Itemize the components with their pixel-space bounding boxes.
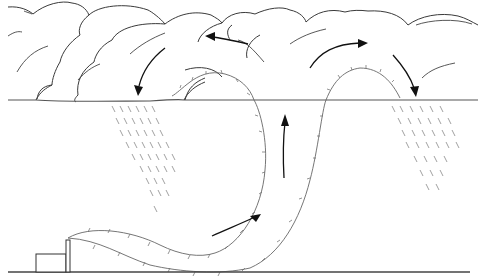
smoke-plume: [68, 65, 400, 276]
updraft-arrow-lower: [212, 217, 255, 236]
arrowhead-icon: [281, 114, 289, 126]
rain-left: [112, 106, 175, 212]
factory-building: [36, 254, 66, 272]
arrowhead-icon: [410, 86, 419, 97]
cloud: [8, 2, 478, 102]
smokestack: [66, 240, 70, 272]
updraft-arrow-middle: [283, 122, 285, 178]
plume-texture: [88, 65, 394, 276]
rain-right: [392, 106, 459, 190]
diagram-canvas: Line illustration of a smokestack plume …: [0, 0, 478, 278]
downdraft-arrow-left: [139, 48, 165, 86]
downdraft-arrow-right: [393, 55, 414, 88]
cloud-base: [8, 100, 478, 102]
arrowhead-icon: [358, 39, 368, 48]
outflow-arrow-left: [212, 37, 248, 44]
arrowhead-icon: [205, 32, 215, 41]
outflow-arrow-right: [310, 43, 360, 68]
diagram-svg: [0, 0, 478, 278]
arrowhead-icon: [134, 85, 143, 96]
circulation-arrows: [134, 32, 419, 236]
